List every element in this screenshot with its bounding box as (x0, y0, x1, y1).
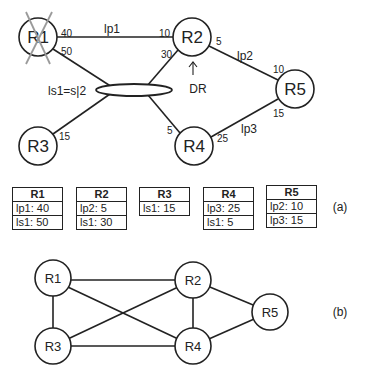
node-r5-label: R5 (284, 80, 306, 99)
cost-r3-ls1: 15 (59, 131, 71, 142)
table-row: ls1: 15 (140, 202, 189, 215)
table-row: ls1: 30 (77, 216, 126, 229)
lan-segment-ls1 (96, 84, 172, 96)
dr-arrow-icon (189, 62, 197, 75)
link-ls1-r4 (148, 95, 180, 133)
cost-r5-lp3: 15 (273, 108, 285, 119)
cost-r1-ls1: 50 (61, 46, 73, 57)
link-lp2-label: lp2 (237, 49, 253, 63)
table-row: lp1: 40 (13, 202, 62, 216)
table-row: lp2: 5 (77, 202, 126, 216)
table-row: ls1: 50 (13, 216, 62, 229)
link-ls1-label: ls1=s|2 (48, 84, 86, 98)
table-r3: R3 ls1: 15 (139, 187, 190, 216)
table-r1: R1 lp1: 40 ls1: 50 (12, 187, 63, 230)
node-r2-label: R2 (181, 28, 203, 47)
link-ls1-r3 (53, 94, 110, 134)
cost-r4-ls1: 5 (167, 125, 173, 136)
table-row: lp3: 25 (204, 202, 253, 216)
table-row: lp2: 10 (267, 200, 316, 214)
node-r4-label: R4 (183, 137, 205, 156)
panel-b-nodes (35, 260, 288, 364)
table-r4: R4 lp3: 25 ls1: 5 (203, 187, 254, 230)
panel-a-label: (a) (333, 200, 348, 214)
table-row: ls1: 5 (204, 216, 253, 229)
cost-r2-lp2: 5 (216, 36, 222, 47)
node-b-r3-label: R3 (45, 339, 62, 354)
link-lp1-label: lp1 (104, 22, 120, 36)
node-b-r5-label: R5 (262, 305, 279, 320)
node-b-r4-label: R4 (185, 339, 202, 354)
node-b-r2-label: R2 (185, 273, 202, 288)
table-r4-title: R4 (204, 188, 253, 202)
table-r2-title: R2 (77, 188, 126, 202)
table-r2: R2 lp2: 5 ls1: 30 (76, 187, 127, 230)
cost-r2-ls1: 30 (161, 49, 173, 60)
table-row: lp3: 15 (267, 214, 316, 227)
cost-r1-lp1: 40 (61, 28, 73, 39)
table-r1-title: R1 (13, 188, 62, 202)
dr-label: DR (189, 82, 207, 96)
node-r3-label: R3 (27, 137, 49, 156)
cost-r2-lp1: 10 (159, 28, 171, 39)
panel-b-label: (b) (333, 305, 348, 319)
table-r5: R5 lp2: 10 lp3: 15 (266, 185, 317, 228)
table-r3-title: R3 (140, 188, 189, 202)
link-lp3-label: lp3 (241, 122, 257, 136)
table-r5-title: R5 (267, 186, 316, 200)
cost-r4-lp3: 25 (217, 133, 229, 144)
panel-b-edges (53, 280, 270, 346)
cost-r5-lp2: 10 (273, 64, 285, 75)
node-b-r1-label: R1 (45, 271, 62, 286)
